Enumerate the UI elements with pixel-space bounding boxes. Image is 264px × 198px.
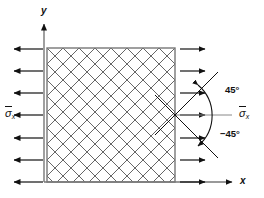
left-stress-label: σx — [5, 108, 15, 120]
left-sigma-glyph: σ — [5, 107, 12, 119]
figure-canvas — [0, 0, 264, 198]
right-stress-label: σx — [239, 108, 249, 120]
angle-label-upper: 45° — [225, 85, 239, 95]
left-load-arrows — [14, 49, 43, 182]
overbar — [5, 106, 12, 107]
y-axis-label: y — [41, 6, 47, 16]
right-sigma-subscript: x — [246, 113, 250, 120]
stress-element-figure: y x σx σx 45° −45° — [0, 0, 264, 198]
x-axis-label: x — [240, 176, 246, 186]
angle-vertex-dot — [174, 114, 177, 117]
stress-element-body — [47, 48, 175, 182]
right-sigma-glyph: σ — [239, 107, 246, 119]
overbar — [239, 106, 246, 107]
left-sigma-subscript: x — [12, 113, 16, 120]
angle-label-lower: −45° — [220, 129, 240, 139]
